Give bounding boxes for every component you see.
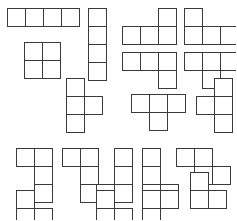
j-tetromino-bottom-left <box>16 190 52 220</box>
shape-cell <box>62 9 80 27</box>
shape-cell <box>150 113 168 131</box>
shape-cell <box>141 27 159 45</box>
j-tetromino-up-left <box>184 8 236 44</box>
shape-cell <box>177 149 195 167</box>
shape-cell <box>17 191 35 209</box>
shape-cell <box>209 191 227 209</box>
shape-cell <box>25 61 43 79</box>
shape-cell <box>159 9 177 27</box>
t-tetromino-bottom-mid <box>96 190 132 220</box>
shape-cell <box>8 9 26 27</box>
shape-cell <box>143 167 161 185</box>
j-tetromino-tall-left <box>62 148 98 202</box>
shape-cell <box>159 71 177 89</box>
shape-cell <box>141 53 159 71</box>
shape-cell <box>191 191 209 209</box>
t-tetromino-down-mid <box>131 94 185 130</box>
shape-cell <box>97 191 115 209</box>
shape-cell <box>17 149 35 167</box>
j-tetromino-down-right <box>122 52 176 88</box>
shape-canvas <box>0 0 236 220</box>
shape-cell <box>115 209 133 221</box>
t-tetromino-right-upper <box>66 78 102 132</box>
shape-cell <box>85 97 103 115</box>
shape-cell <box>221 53 237 71</box>
shape-cell <box>115 167 133 185</box>
shape-cell <box>185 9 203 27</box>
shape-cell <box>67 115 85 133</box>
shape-cell <box>203 53 221 71</box>
shape-cell <box>143 209 161 221</box>
i-tetromino-vertical <box>88 8 106 80</box>
shape-cell <box>191 173 209 191</box>
o-tetromino-square <box>24 42 60 78</box>
shape-cell <box>89 9 107 27</box>
shape-cell <box>67 79 85 97</box>
shape-cell <box>203 27 221 45</box>
s-tetromino-vertical-left <box>196 78 232 132</box>
shape-cell <box>26 9 44 27</box>
shape-cell <box>67 97 85 115</box>
shape-cell <box>35 209 53 221</box>
shape-cell <box>221 27 237 45</box>
shape-cell <box>197 97 215 115</box>
l-tetromino-up-right <box>122 8 176 44</box>
shape-cell <box>185 27 203 45</box>
shape-cell <box>143 191 161 209</box>
shape-cell <box>89 27 107 45</box>
shape-cell <box>44 9 62 27</box>
shape-cell <box>35 167 53 185</box>
shape-cell <box>35 149 53 167</box>
shape-cell <box>159 27 177 45</box>
shape-cell <box>89 45 107 63</box>
shape-cell <box>17 209 35 221</box>
s-tetromino-bottom-center <box>142 190 178 220</box>
shape-cell <box>215 115 233 133</box>
shape-cell <box>143 149 161 167</box>
shape-cell <box>123 27 141 45</box>
shape-cell <box>132 95 150 113</box>
shape-cell <box>195 149 213 167</box>
shape-cell <box>168 95 186 113</box>
shape-cell <box>25 43 43 61</box>
l-tetromino-bottom-right <box>190 172 226 208</box>
shape-cell <box>159 53 177 71</box>
i-tetromino-horizontal <box>7 8 79 26</box>
shape-cell <box>43 61 61 79</box>
shape-cell <box>161 191 179 209</box>
shape-cell <box>215 79 233 97</box>
shape-cell <box>43 43 61 61</box>
shape-cell <box>115 149 133 167</box>
shape-cell <box>215 97 233 115</box>
shape-cell <box>97 209 115 221</box>
shape-cell <box>185 53 203 71</box>
shape-cell <box>63 149 81 167</box>
shape-cell <box>150 95 168 113</box>
shape-cell <box>123 53 141 71</box>
